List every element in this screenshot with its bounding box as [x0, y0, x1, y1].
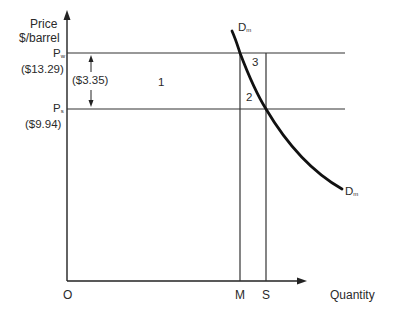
price-label-ps: Ps [53, 103, 64, 115]
region-label-2: 2 [246, 92, 252, 104]
price-label-pw: Pw [53, 48, 65, 60]
y-axis-arrow-icon [64, 10, 71, 20]
quantity-label-m: M [235, 289, 245, 301]
y-axis-label-unit: $/barrel [19, 32, 60, 44]
demand-curve [232, 31, 342, 189]
x-axis-label: Quantity [330, 289, 375, 301]
origin-label: O [63, 289, 72, 301]
price-difference-label: ($3.35) [72, 75, 108, 87]
curve-subscript: m [246, 27, 251, 33]
price-symbol: P [53, 47, 61, 59]
x-axis-arrow-icon [297, 278, 307, 285]
price-subscript: w [61, 53, 65, 59]
price-value-pw: ($13.29) [21, 64, 64, 76]
quantity-label-s: S [262, 289, 270, 301]
y-axis-label-price: Price [30, 18, 57, 30]
region-label-1: 1 [158, 77, 164, 89]
curve-subscript: m [353, 191, 358, 197]
price-symbol: P [53, 102, 61, 114]
arrow-down-icon [89, 100, 94, 107]
price-value-ps: ($9.94) [25, 119, 61, 131]
curve-label-bottom: Dm [345, 186, 358, 198]
region-label-3: 3 [252, 57, 258, 69]
arrow-up-icon [89, 55, 94, 62]
price-subscript: s [61, 108, 64, 114]
curve-label-top: Dm [238, 22, 251, 34]
